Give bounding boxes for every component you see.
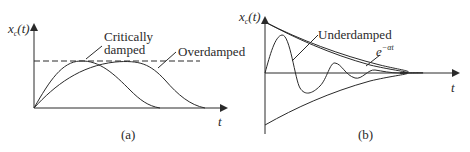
critically-damped-curve <box>34 61 160 108</box>
envelope-label: e−αt <box>376 44 394 58</box>
underdamped-leader <box>292 35 318 61</box>
env-exp: −αt <box>382 43 394 52</box>
panel-b-y-axis-label: xc(t) <box>239 10 261 26</box>
panel-a-x-axis-label: t <box>218 115 222 128</box>
critically-damped-leader <box>86 46 102 59</box>
panel-b-caption: (b) <box>358 128 373 141</box>
panel-b-x-axis-label: t <box>451 81 455 94</box>
overdamped-leader <box>158 52 176 68</box>
y-arg: (t) <box>17 21 29 36</box>
y-arg: (t) <box>248 9 260 24</box>
overdamped-curve <box>34 62 205 108</box>
underdamped-label: Underdamped <box>318 28 392 41</box>
overdamped-label: Overdamped <box>178 45 245 58</box>
panel-a-y-axis-label: xc(t) <box>8 22 30 38</box>
lower-envelope-curve <box>265 73 407 125</box>
panel-a-caption: (a) <box>121 128 135 141</box>
figure-canvas <box>0 0 470 152</box>
critically-damped-label-line2: damped <box>104 43 145 56</box>
